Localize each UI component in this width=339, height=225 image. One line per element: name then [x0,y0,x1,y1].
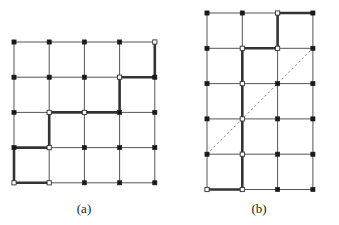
lattice-node-filled [205,11,209,15]
lattice-node-filled [153,181,157,185]
lattice-node-filled [205,46,209,50]
lattice-node-filled [311,82,315,86]
lattice-node-filled [276,152,280,156]
lattice-node-open [240,152,244,156]
lattice-node-filled [276,82,280,86]
lattice-node-open [205,187,209,191]
lattice-node-filled [118,110,122,114]
lattice-node-filled [47,75,51,79]
lattice-node-open [118,75,122,79]
lattice-node-filled [47,40,51,44]
lattice-node-open [12,181,16,185]
lattice-node-filled [311,117,315,121]
lattice-node-filled [276,117,280,121]
lattice-node-filled [240,11,244,15]
lattice-node-open [240,117,244,121]
lattice-node-open [240,187,244,191]
lattice-node-open [47,110,51,114]
lattice-node-filled [311,46,315,50]
lattice-node-filled [82,181,86,185]
lattice-node-filled [311,152,315,156]
lattice-node-open [276,46,280,50]
lattice-node-filled [205,152,209,156]
lattice-node-filled [153,110,157,114]
lattice-node-filled [12,146,16,150]
lattice-node-filled [276,187,280,191]
lattice-node-filled [118,181,122,185]
lattice-node-filled [118,40,122,44]
figure-container: (a) (b) [0,0,339,225]
lattice-node-filled [12,40,16,44]
lattice-node-open [47,181,51,185]
panel-a-caption: (a) [77,201,91,216]
panel-b-caption: (b) [251,201,266,216]
lattice-node-filled [311,187,315,191]
lattice-node-filled [82,40,86,44]
lattice-node-filled [205,117,209,121]
lattice-node-filled [12,75,16,79]
lattice-node-filled [118,146,122,150]
lattice-node-open [240,82,244,86]
lattice-node-open [47,146,51,150]
lattice-node-open [276,11,280,15]
lattice-node-open [82,110,86,114]
lattice-paths-figure: (a) (b) [0,0,339,225]
lattice-node-filled [82,146,86,150]
lattice-node-open [240,46,244,50]
lattice-node-filled [153,146,157,150]
lattice-node-filled [12,110,16,114]
lattice-node-filled [153,75,157,79]
lattice-node-filled [311,11,315,15]
lattice-node-filled [82,75,86,79]
lattice-node-filled [205,82,209,86]
lattice-node-open [153,40,157,44]
